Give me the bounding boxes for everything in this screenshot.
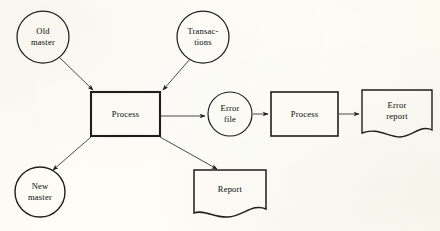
node-process-error-shape (271, 92, 338, 136)
node-transactions-shape (177, 11, 229, 63)
node-process-main-shape (91, 92, 160, 136)
edge-process-to-new-master (53, 137, 91, 170)
node-report-shape (194, 170, 266, 217)
edge-transactions-to-process (163, 59, 190, 90)
node-error-file-shape (208, 92, 252, 136)
edge-old-master-to-process (59, 57, 93, 90)
diagram-graphics (0, 0, 440, 231)
node-old-master-shape (17, 11, 69, 63)
node-new-master-shape (15, 167, 65, 217)
node-error-report-shape (362, 90, 432, 137)
diagram-canvas: Old master Transac- tions Process Error … (0, 0, 440, 231)
edge-process-to-report (160, 137, 217, 169)
